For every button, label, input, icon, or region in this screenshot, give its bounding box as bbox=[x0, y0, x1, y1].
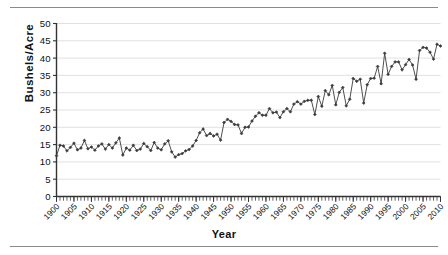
svg-text:1995: 1995 bbox=[373, 201, 393, 221]
x-axis-tick-labels: 1900190519101915192019251930193519401945… bbox=[41, 201, 445, 221]
svg-text:15: 15 bbox=[40, 139, 51, 150]
svg-text:25: 25 bbox=[40, 104, 51, 115]
svg-text:50: 50 bbox=[40, 18, 51, 29]
svg-text:35: 35 bbox=[40, 70, 51, 81]
svg-text:1955: 1955 bbox=[233, 201, 253, 221]
svg-text:1960: 1960 bbox=[251, 201, 271, 221]
svg-text:20: 20 bbox=[40, 122, 51, 133]
svg-text:1975: 1975 bbox=[303, 201, 323, 221]
chart-figure: Bushels/Acre Year 05101520253035404550 1… bbox=[0, 0, 448, 255]
svg-text:2005: 2005 bbox=[408, 201, 428, 221]
svg-text:30: 30 bbox=[40, 87, 51, 98]
svg-text:1985: 1985 bbox=[338, 201, 358, 221]
svg-text:45: 45 bbox=[40, 35, 51, 46]
y-gridlines bbox=[57, 24, 441, 180]
svg-text:1990: 1990 bbox=[355, 201, 375, 221]
svg-text:10: 10 bbox=[40, 156, 51, 167]
svg-text:1965: 1965 bbox=[268, 201, 288, 221]
svg-text:2000: 2000 bbox=[390, 201, 410, 221]
y-axis-tick-labels: 05101520253035404550 bbox=[40, 18, 51, 202]
svg-text:1930: 1930 bbox=[146, 201, 166, 221]
svg-text:1970: 1970 bbox=[286, 201, 306, 221]
svg-text:1925: 1925 bbox=[129, 201, 149, 221]
svg-text:1945: 1945 bbox=[198, 201, 218, 221]
svg-text:2010: 2010 bbox=[425, 201, 445, 221]
svg-text:1980: 1980 bbox=[321, 201, 341, 221]
svg-text:0: 0 bbox=[45, 191, 50, 202]
svg-text:1915: 1915 bbox=[94, 201, 114, 221]
svg-text:1950: 1950 bbox=[216, 201, 236, 221]
series-line-yield bbox=[57, 44, 441, 157]
svg-text:1940: 1940 bbox=[181, 201, 201, 221]
x-axis-major-ticks bbox=[57, 197, 441, 202]
svg-text:1910: 1910 bbox=[76, 201, 96, 221]
svg-text:1935: 1935 bbox=[163, 201, 183, 221]
svg-text:5: 5 bbox=[45, 174, 50, 185]
plot-canvas: 05101520253035404550 1900190519101915192… bbox=[0, 0, 448, 255]
svg-text:40: 40 bbox=[40, 53, 51, 64]
svg-text:1900: 1900 bbox=[41, 201, 61, 221]
svg-text:1905: 1905 bbox=[59, 201, 79, 221]
svg-text:1920: 1920 bbox=[111, 201, 131, 221]
